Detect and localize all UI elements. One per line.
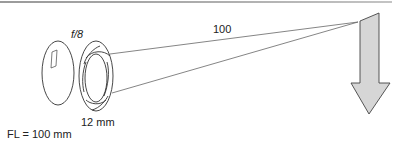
lens-icon	[42, 41, 74, 105]
distance-label: 100	[213, 23, 231, 35]
focal-length-label: FL = 100 mm	[7, 128, 72, 140]
lower-ray	[112, 22, 358, 93]
optics-diagram: f/8 100 12 mm FL = 100 mm	[0, 0, 411, 152]
aperture-iris-icon	[79, 41, 113, 111]
aperture-label: f/8	[71, 28, 83, 40]
aperture-diameter-label: 12 mm	[81, 116, 115, 128]
object-arrow-icon	[351, 13, 390, 114]
upper-ray	[110, 22, 358, 54]
